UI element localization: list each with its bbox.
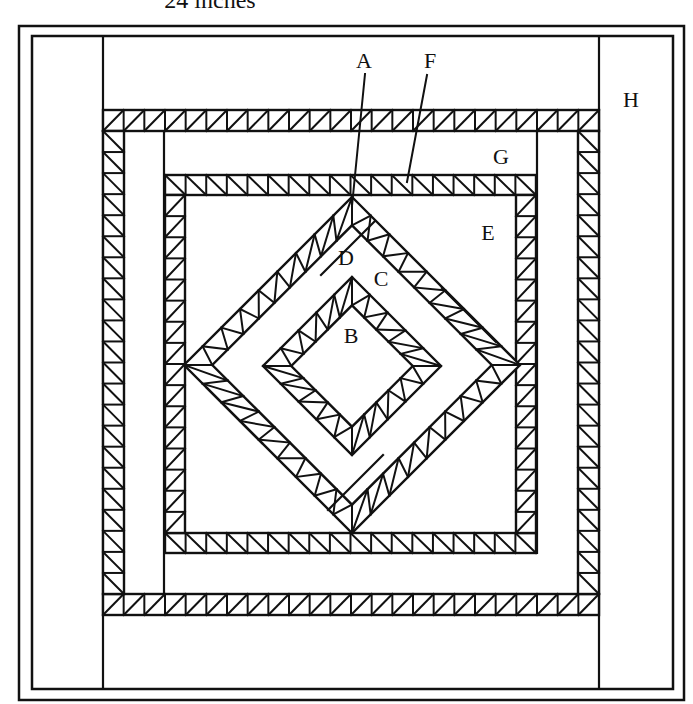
label-d: D bbox=[338, 245, 354, 270]
label-a: A bbox=[356, 48, 372, 73]
triangle-diagonal bbox=[376, 330, 405, 331]
triangle-diagonal bbox=[316, 313, 317, 342]
label-g: G bbox=[493, 144, 509, 169]
label-h: H bbox=[623, 87, 639, 112]
label-b: B bbox=[344, 323, 359, 348]
label-c: C bbox=[374, 266, 389, 291]
triangle-diagonal bbox=[299, 402, 328, 403]
quilt-block-diagram: 24 inches AFHGEDCB bbox=[0, 0, 693, 704]
triangle-diagonal bbox=[388, 390, 389, 419]
label-f: F bbox=[424, 48, 436, 73]
label-e: E bbox=[481, 220, 494, 245]
dimension-title: 24 inches bbox=[164, 0, 255, 13]
